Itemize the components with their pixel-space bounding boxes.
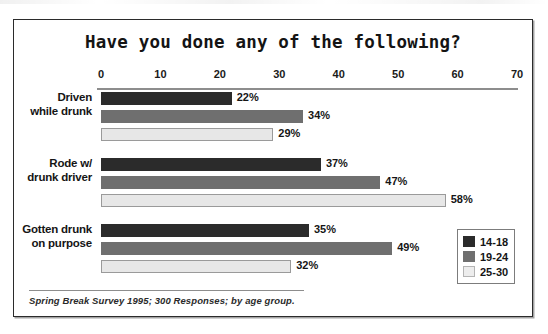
x-axis-tick-20: 20 (214, 68, 226, 80)
plot-area: Drivenwhile drunk22%34%29%Rode w/drunk d… (14, 92, 532, 282)
bar-row: 22% (101, 92, 517, 105)
chart-footnote: Spring Break Survey 1995; 300 Responses;… (29, 295, 295, 306)
x-axis-tick-40: 40 (333, 68, 345, 80)
bar-row: 32% (101, 260, 517, 273)
legend-label: 25-30 (480, 266, 508, 278)
x-axis-tick-50: 50 (392, 68, 404, 80)
bar-14-18-gotten-drunk-on-purpose[interactable] (101, 224, 309, 237)
chart-title: Have you done any of the following? (14, 32, 532, 52)
legend-item-19-24[interactable]: 19-24 (463, 249, 509, 264)
category-label-line: Rode w/ (14, 157, 92, 171)
bar-value-label: 32% (296, 259, 318, 271)
bar-row: 35% (101, 224, 517, 237)
bar-25-30-gotten-drunk-on-purpose[interactable] (101, 260, 291, 273)
x-axis-tick-labels: 010203040506070 (14, 68, 532, 90)
x-axis-line (97, 88, 518, 90)
category-label: Rode w/drunk driver (14, 157, 92, 184)
legend-swatch-icon (463, 251, 475, 262)
bar-group: Gotten drunkon purpose35%49%32% (14, 224, 532, 278)
bar-row: 34% (101, 110, 517, 123)
bar-value-label: 29% (278, 127, 300, 139)
bar-14-18-rode-w-drunk-driver[interactable] (101, 158, 321, 171)
category-label-line: on purpose (14, 237, 92, 251)
legend-swatch-icon (463, 266, 475, 277)
legend-label: 14-18 (480, 236, 508, 248)
bar-19-24-driven-while-drunk[interactable] (101, 110, 303, 123)
bar-19-24-gotten-drunk-on-purpose[interactable] (101, 242, 392, 255)
category-label-line: Gotten drunk (14, 223, 92, 237)
chart-legend: 14-1819-2425-30 (457, 229, 515, 284)
bar-value-label: 47% (385, 175, 407, 187)
bar-value-label: 22% (237, 91, 259, 103)
bar-14-18-driven-while-drunk[interactable] (101, 92, 232, 105)
chart-figure: Have you done any of the following? 0102… (13, 19, 533, 317)
legend-item-25-30[interactable]: 25-30 (463, 264, 509, 279)
bar-row: 58% (101, 194, 517, 207)
legend-swatch-icon (463, 236, 475, 247)
bar-25-30-driven-while-drunk[interactable] (101, 128, 273, 141)
bar-25-30-rode-w-drunk-driver[interactable] (101, 194, 446, 207)
bar-group: Drivenwhile drunk22%34%29% (14, 92, 532, 146)
bar-group: Rode w/drunk driver37%47%58% (14, 158, 532, 212)
category-label: Drivenwhile drunk (14, 91, 92, 118)
x-axis-tick-60: 60 (451, 68, 463, 80)
x-axis-tick-10: 10 (154, 68, 166, 80)
category-label-line: Driven (14, 91, 92, 105)
x-axis-tick-70: 70 (511, 68, 523, 80)
legend-label: 19-24 (480, 251, 508, 263)
bar-row: 47% (101, 176, 517, 189)
scan-artifact (0, 0, 548, 4)
x-axis-tick-30: 30 (273, 68, 285, 80)
bar-value-label: 49% (397, 241, 419, 253)
bar-row: 49% (101, 242, 517, 255)
category-label-line: while drunk (14, 105, 92, 119)
x-axis-tick-0: 0 (98, 68, 104, 80)
bar-19-24-rode-w-drunk-driver[interactable] (101, 176, 380, 189)
bar-row: 29% (101, 128, 517, 141)
bar-value-label: 35% (314, 223, 336, 235)
bar-value-label: 34% (308, 109, 330, 121)
footnote-divider (29, 290, 304, 291)
bar-row: 37% (101, 158, 517, 171)
legend-item-14-18[interactable]: 14-18 (463, 234, 509, 249)
category-label-line: drunk driver (14, 171, 92, 185)
category-label: Gotten drunkon purpose (14, 223, 92, 250)
bar-value-label: 58% (451, 193, 473, 205)
bar-value-label: 37% (326, 157, 348, 169)
